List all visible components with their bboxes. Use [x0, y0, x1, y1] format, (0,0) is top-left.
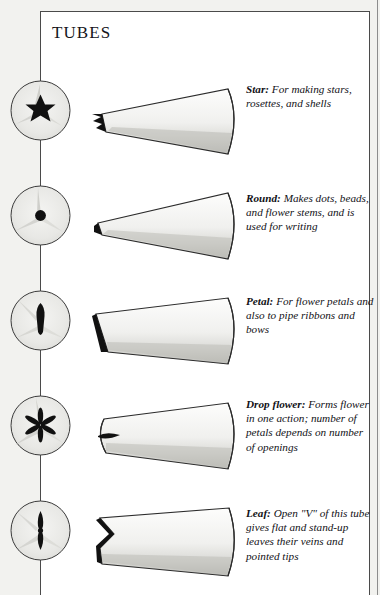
tube-row-round: Round: Makes dots, beads, and flower ste…	[0, 181, 380, 286]
teardrop-slit-opening-icon	[10, 290, 71, 351]
tube-term-petal: Petal:	[246, 295, 273, 307]
page-root: TUBES	[0, 0, 380, 595]
star-tube-cone-icon	[88, 76, 248, 172]
tube-row-drop-flower: Drop flower: Forms flower in one action;…	[0, 391, 380, 496]
tube-caption-drop-flower: Drop flower: Forms flower in one action;…	[246, 397, 374, 454]
tube-term-star: Star:	[246, 83, 269, 95]
tube-row-leaf: Leaf: Open "V" of this tube gives flat a…	[0, 496, 380, 595]
round-dot-opening-icon	[10, 185, 71, 246]
tube-caption-star: Star: For making stars, rosettes, and sh…	[246, 82, 374, 110]
tube-term-leaf: Leaf:	[246, 507, 271, 519]
tube-term-drop-flower: Drop flower:	[246, 398, 305, 410]
page-title: TUBES	[52, 23, 111, 43]
leaf-tube-cone-icon	[88, 496, 248, 592]
tube-row-star: Star: For making stars, rosettes, and sh…	[0, 76, 380, 181]
drop-flower-tube-cone-icon	[88, 391, 248, 487]
six-petal-flower-opening-icon	[10, 395, 71, 456]
tube-caption-leaf: Leaf: Open "V" of this tube gives flat a…	[246, 506, 374, 563]
petal-tube-wedge-icon	[88, 286, 248, 382]
tube-caption-petal: Petal: For flower petals and also to pip…	[246, 294, 374, 337]
tube-term-round: Round:	[246, 192, 281, 204]
round-tube-cone-icon	[88, 181, 248, 277]
v-slot-opening-icon	[10, 500, 71, 561]
tube-caption-round: Round: Makes dots, beads, and flower ste…	[246, 191, 374, 234]
tube-row-petal: Petal: For flower petals and also to pip…	[0, 286, 380, 391]
six-point-star-opening-icon	[10, 80, 71, 141]
